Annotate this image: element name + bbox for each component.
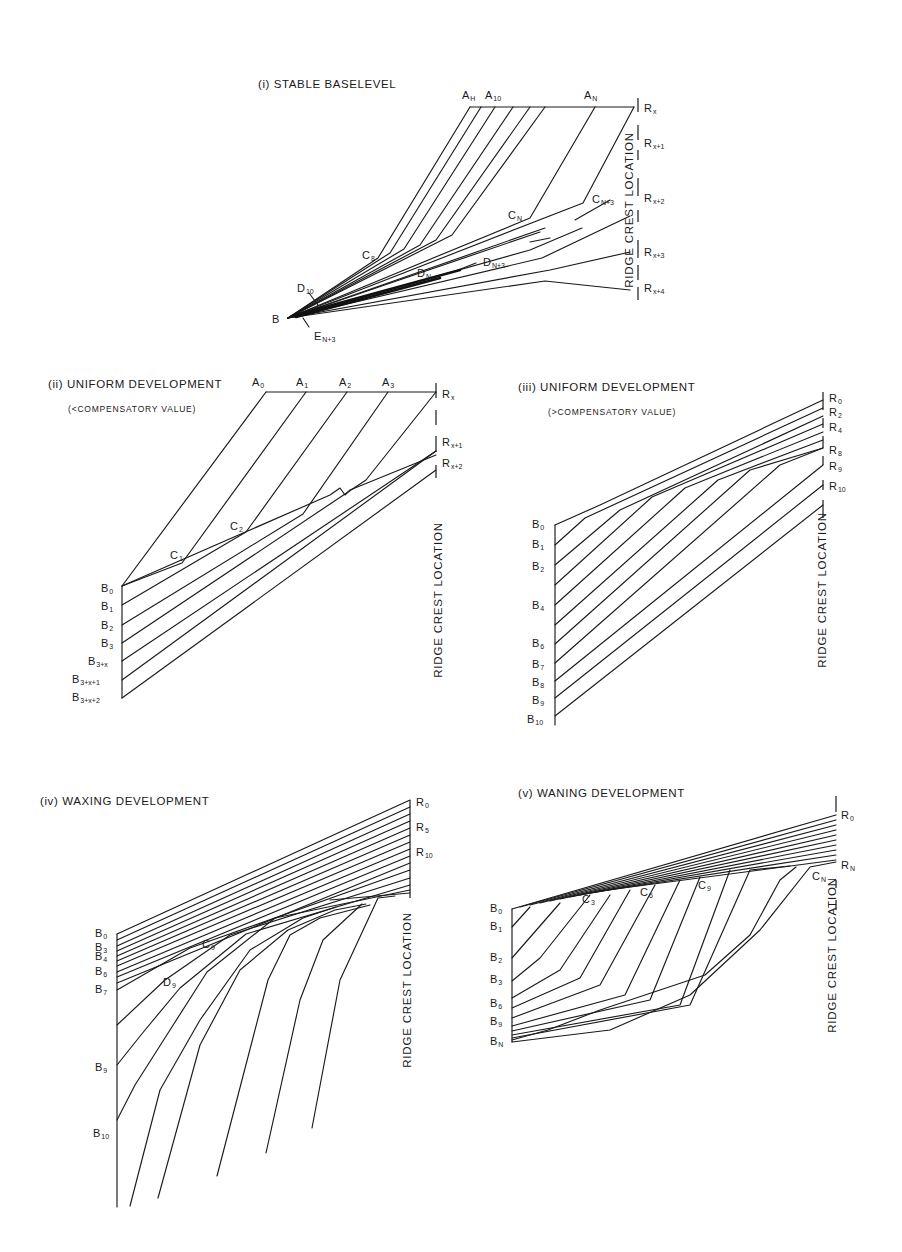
point-label: B9 — [532, 694, 544, 707]
point-label: C6 — [640, 886, 653, 899]
slope-profile-line — [530, 238, 550, 242]
panel-uniform-development-less-compensatory: (ii) UNIFORM DEVELOPMENT (<COMPENSATORY … — [48, 376, 463, 704]
point-label: B2 — [101, 619, 113, 632]
point-label: B3 — [490, 973, 502, 986]
point-label: B3 — [101, 637, 113, 650]
slope-profile-line — [122, 392, 388, 625]
point-label: CN — [812, 870, 826, 883]
point-label: B4 — [532, 599, 544, 612]
slope-profile-line — [512, 903, 560, 958]
point-label: D10 — [297, 282, 314, 295]
leader-line — [303, 318, 309, 327]
point-label: Rx — [442, 388, 455, 401]
point-label: Rx+4 — [644, 282, 665, 295]
point-label: B9 — [490, 1015, 502, 1028]
slope-profile-line — [512, 862, 836, 1042]
panel-subtitle: (<COMPENSATORY VALUE) — [68, 404, 196, 414]
point-label: B — [272, 313, 279, 325]
point-label: B6 — [95, 965, 107, 978]
slope-profile-line — [117, 856, 410, 977]
point-label: B0 — [490, 902, 502, 915]
point-label: R8 — [829, 444, 842, 457]
slope-profile-bundle — [292, 270, 460, 316]
point-label: B1 — [490, 920, 502, 933]
point-label: Rx+3 — [644, 246, 665, 259]
slope-profile-line — [555, 485, 823, 698]
point-label: C3 — [582, 893, 595, 906]
point-label: B1 — [532, 538, 544, 551]
panel-title: (v) WANING DEVELOPMENT — [518, 787, 685, 799]
point-label: B7 — [532, 658, 544, 671]
point-label: B10 — [527, 713, 543, 726]
point-label: R0 — [841, 809, 854, 822]
point-label: A10 — [485, 89, 501, 102]
slope-profile-line — [122, 455, 436, 586]
point-label: D9 — [163, 976, 176, 989]
point-label: Rx+1 — [442, 436, 463, 449]
point-label: B0 — [101, 582, 113, 595]
point-label: B7 — [95, 983, 107, 996]
slope-profile-line — [555, 416, 823, 565]
slope-profile-line — [122, 470, 436, 698]
slope-profile-line — [555, 440, 823, 625]
point-label: C2 — [230, 520, 243, 533]
point-label: B1 — [101, 600, 113, 613]
point-label: A3 — [382, 376, 394, 389]
ridge-crest-location-label: RIDGE CREST LOCATION — [816, 512, 828, 668]
ridge-crest-location-label: RIDGE CREST LOCATION — [401, 912, 413, 1068]
slope-profile-line — [288, 107, 481, 318]
point-label: B0 — [95, 927, 107, 940]
slope-profile-line — [555, 432, 823, 605]
ridge-crest-location-label: RIDGE CREST LOCATION — [826, 877, 838, 1033]
slope-profile-line — [117, 885, 410, 1065]
point-label: B9 — [95, 1061, 107, 1074]
slope-profile-line — [122, 392, 266, 586]
slope-profile-line — [312, 896, 395, 1128]
panel-stable-baselevel: (i) STABLE BASELEVEL RIDGE CREST LOCATIO… — [258, 78, 665, 343]
point-label: C8 — [362, 249, 375, 262]
point-label: CN — [508, 209, 522, 222]
point-label: C1 — [170, 549, 183, 562]
ridge-crest-location-label: RIDGE CREST LOCATION — [623, 132, 635, 288]
panel-title: (ii) UNIFORM DEVELOPMENT — [48, 378, 222, 390]
point-label: A1 — [296, 376, 308, 389]
point-label: A0 — [252, 376, 264, 389]
point-label: CN+3 — [592, 193, 614, 206]
point-label: R0 — [416, 796, 429, 809]
point-label: B3+x+1 — [72, 673, 100, 686]
point-label: A2 — [339, 376, 351, 389]
slope-profile-line — [555, 448, 823, 663]
point-label: B6 — [532, 637, 544, 650]
point-label: AN — [584, 89, 597, 102]
slope-profile-line — [117, 870, 410, 990]
point-label: C9 — [698, 879, 711, 892]
point-label: B6 — [490, 997, 502, 1010]
panel-title: (iii) UNIFORM DEVELOPMENT — [518, 381, 695, 393]
slope-profile-line — [117, 878, 410, 1025]
point-label: Rx — [644, 102, 657, 115]
slope-profile-line — [555, 465, 823, 681]
slope-profile-line — [530, 825, 836, 905]
point-label: Rx+2 — [644, 192, 665, 205]
point-label: B8 — [532, 676, 544, 689]
point-label: B0 — [532, 518, 544, 531]
ridge-crest-location-label: RIDGE CREST LOCATION — [432, 522, 444, 678]
slope-profile-line — [555, 448, 823, 644]
panel-subtitle: (>COMPENSATORY VALUE) — [548, 407, 676, 417]
point-label: B10 — [93, 1127, 109, 1140]
point-label: R2 — [829, 406, 842, 419]
point-label: Rx+1 — [644, 137, 665, 150]
point-label: B3+x+2 — [72, 691, 100, 704]
point-label: Rx+2 — [442, 457, 463, 470]
slope-profile-line — [288, 107, 495, 318]
slope-development-diagram: (i) STABLE BASELEVEL RIDGE CREST LOCATIO… — [0, 0, 902, 1252]
panel-title: (i) STABLE BASELEVEL — [258, 78, 396, 90]
point-label: AH — [462, 89, 475, 102]
panel-uniform-development-greater-compensatory: (iii) UNIFORM DEVELOPMENT (>COMPENSATORY… — [518, 381, 846, 726]
panel-waxing-development: (iv) WAXING DEVELOPMENT RIDGE CREST LOCA… — [40, 795, 433, 1207]
point-label: R10 — [416, 846, 433, 859]
panel-title: (iv) WAXING DEVELOPMENT — [40, 795, 209, 807]
slope-profile-line — [550, 835, 836, 901]
slope-profile-bundle — [296, 278, 440, 317]
slope-profile-line — [117, 814, 410, 946]
